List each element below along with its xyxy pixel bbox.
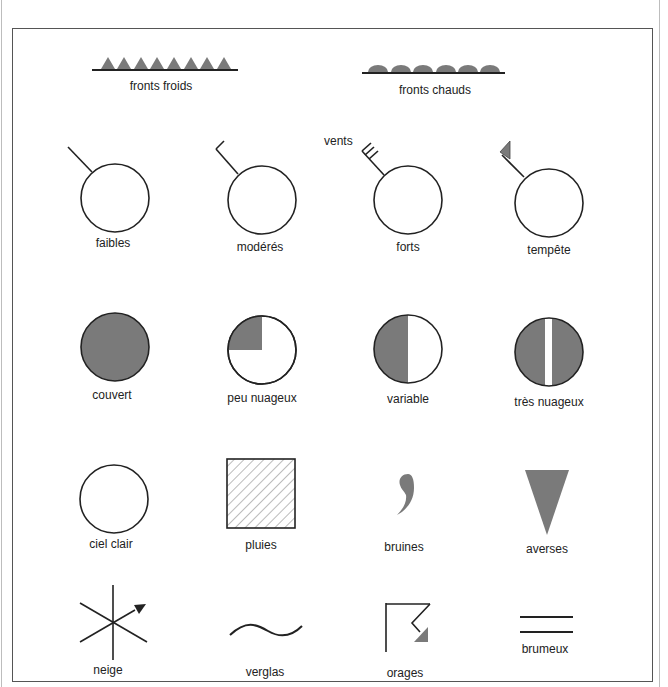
wind-light-icon: [68, 147, 149, 232]
label-drizzle: bruines: [384, 540, 423, 554]
rain-icon: [227, 459, 295, 528]
few-clouds-icon: [228, 316, 296, 384]
wind-strong-icon: [362, 143, 442, 234]
label-few-clouds: peu nuageux: [227, 391, 296, 405]
label-wind-moderate: modérés: [237, 240, 284, 254]
showers-icon: [525, 470, 569, 535]
drizzle-icon: [397, 474, 414, 515]
label-winds-caption: vents: [324, 134, 353, 148]
wind-moderate-icon: [216, 141, 296, 234]
label-thunderstorm: orages: [387, 666, 424, 680]
label-wind-strong: forts: [396, 240, 419, 254]
ice-icon: [230, 625, 302, 635]
label-overcast: couvert: [92, 388, 131, 402]
cold-front-icon: [92, 57, 238, 70]
label-ice: verglas: [246, 665, 285, 679]
label-cold-front: fronts froids: [130, 79, 193, 93]
label-very-cloudy: très nuageux: [514, 395, 583, 409]
label-snow: neige: [93, 663, 122, 677]
thunderstorm-icon: [386, 603, 430, 652]
storm-flag-icon: [500, 141, 510, 159]
label-rain: pluies: [245, 538, 276, 552]
label-warm-front: fronts chauds: [399, 83, 471, 97]
label-mist: brumeux: [522, 642, 569, 656]
wind-storm-icon: [502, 155, 583, 237]
label-clear-sky: ciel clair: [89, 537, 132, 551]
very-cloudy-icon: [515, 317, 583, 387]
snow-icon: [80, 585, 147, 660]
mist-icon: [520, 617, 573, 632]
warm-front-icon: [362, 65, 505, 73]
label-wind-light: faibles: [96, 236, 131, 250]
clear-sky-icon: [80, 465, 148, 533]
variable-icon: [374, 315, 442, 383]
label-variable: variable: [387, 392, 429, 406]
label-wind-storm: tempête: [527, 243, 570, 257]
symbols-canvas: [0, 0, 668, 687]
overcast-icon: [81, 313, 149, 381]
label-showers: averses: [526, 542, 568, 556]
